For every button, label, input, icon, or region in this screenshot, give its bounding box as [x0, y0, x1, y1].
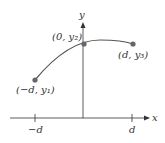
y-axis-label: y [78, 9, 85, 20]
x-axis-label: x [152, 112, 158, 123]
point-label-zero: (0, y₂) [52, 31, 82, 42]
point-d [130, 41, 135, 46]
point-neg-d [32, 77, 37, 82]
point-label-d: (d, y₃) [118, 49, 148, 60]
tick-label-neg-d: −d [28, 124, 43, 135]
x-axis [10, 116, 150, 121]
parabola-diagram: x y −d d (−d, y₁) (0, y₂) (d, y₃) [0, 0, 165, 143]
tick-label-d: d [129, 124, 135, 135]
point-label-neg-d: (−d, y₁) [16, 84, 55, 95]
y-axis-arrow-icon [81, 22, 86, 28]
point-zero [81, 41, 86, 46]
x-axis-arrow-icon [144, 116, 150, 121]
